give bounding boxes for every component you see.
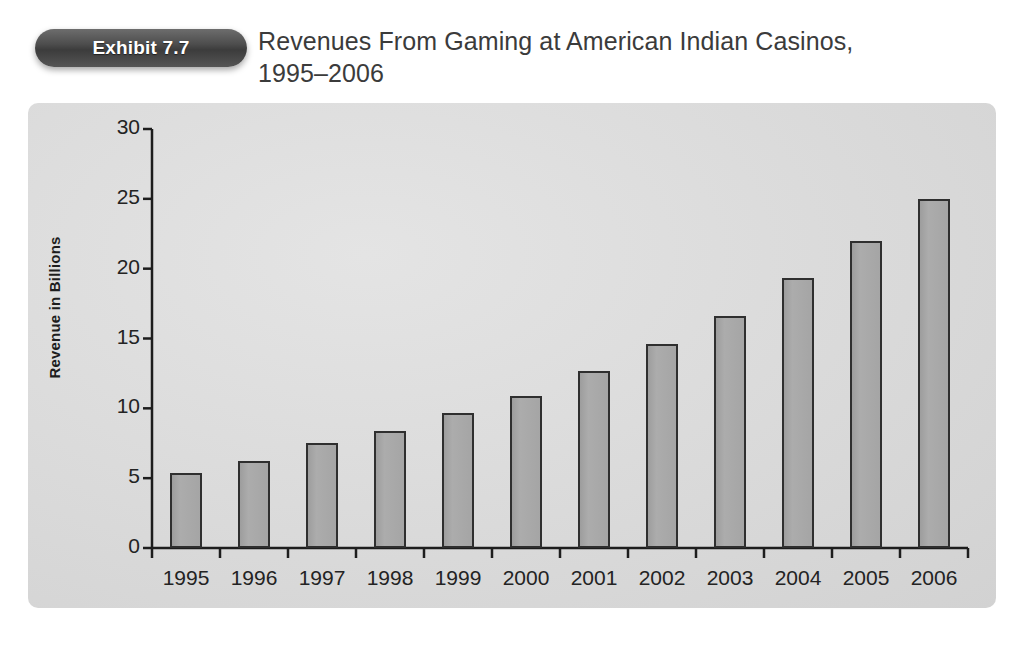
bar — [850, 241, 882, 548]
exhibit-number-label: Exhibit 7.7 — [92, 37, 189, 59]
figure-title-line-2: 1995–2006 — [258, 57, 998, 89]
bar — [714, 316, 746, 548]
bar — [646, 344, 678, 548]
bar — [306, 443, 338, 548]
exhibit-figure: Exhibit 7.7 Revenues From Gaming at Amer… — [0, 0, 1026, 645]
bar — [170, 473, 202, 548]
chart-panel: Revenue in Billions 051015202530 1995199… — [28, 103, 996, 608]
figure-header: Exhibit 7.7 Revenues From Gaming at Amer… — [0, 0, 1026, 103]
figure-title: Revenues From Gaming at American Indian … — [258, 25, 998, 89]
bar — [578, 371, 610, 548]
figure-title-line-1: Revenues From Gaming at American Indian … — [258, 25, 998, 57]
bar — [374, 431, 406, 548]
exhibit-number-badge: Exhibit 7.7 — [35, 29, 247, 67]
bar — [782, 278, 814, 548]
bar-chart-plot-area: Revenue in Billions 051015202530 1995199… — [28, 103, 996, 608]
bar — [238, 461, 270, 548]
bar — [510, 396, 542, 548]
bar — [442, 413, 474, 548]
bar — [918, 199, 950, 548]
